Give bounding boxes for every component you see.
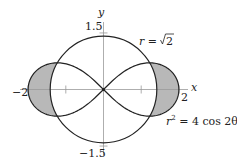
svg-text:r =: r = [139, 35, 157, 48]
x-tick-label-left: −2 [12, 86, 28, 99]
y-tick-label-top: 1.5 [85, 20, 103, 33]
y-axis-label: y [97, 6, 105, 19]
svg-text:r2 = 4 cos 2θ: r2 = 4 cos 2θ [166, 114, 237, 128]
y-tick-label-bottom: −1.5 [79, 147, 106, 160]
origin-dot [102, 88, 105, 91]
x-tick-label-right: 2 [181, 91, 188, 104]
circle-equation-label: r = 2 [139, 34, 174, 48]
lemniscate-equation-label: r2 = 4 cos 2θ [166, 114, 237, 128]
x-axis-label: x [191, 81, 198, 94]
svg-text:2: 2 [166, 35, 173, 48]
polar-plot: y x 1.5 −1.5 −2 2 r = 2 r2 = 4 cos 2θ [0, 0, 237, 168]
